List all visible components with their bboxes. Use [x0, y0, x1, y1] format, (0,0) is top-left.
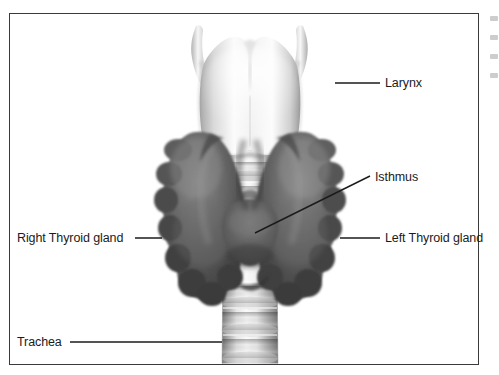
edge-mark	[490, 73, 498, 78]
label-right-thyroid-gland: Right Thyroid gland	[17, 232, 123, 245]
edge-mark	[490, 16, 498, 21]
figure-frame	[9, 13, 479, 365]
label-left-thyroid-gland: Left Thyroid gland	[385, 232, 483, 245]
anatomy-figure: Larynx Isthmus Left Thyroid gland Right …	[0, 0, 499, 375]
label-larynx: Larynx	[385, 77, 422, 90]
label-isthmus: Isthmus	[375, 171, 418, 184]
edge-mark	[490, 54, 498, 59]
label-trachea: Trachea	[17, 336, 62, 349]
edge-mark	[490, 35, 498, 40]
page-edge-artifact	[490, 16, 498, 78]
